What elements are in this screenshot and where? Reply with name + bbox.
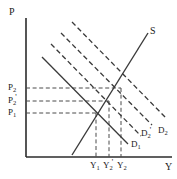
- demand-curve-d2-letter: D: [158, 125, 165, 135]
- demand-curve-d2-prime: [61, 33, 152, 125]
- supply-curve-group: [72, 33, 148, 155]
- demand-curves-group: [42, 22, 166, 144]
- quantity-tick-y2-letter: Y: [117, 160, 124, 170]
- price-tick-p2-subscript: 2: [13, 86, 16, 93]
- price-tick-p2-prime: P2': [8, 96, 18, 105]
- y-axis-label: P: [9, 7, 15, 17]
- demand-curve-d2-prime-mark: ': [150, 126, 151, 135]
- quantity-tick-y2-prime-mark: ': [112, 158, 113, 167]
- demand-curve-d1-letter: D: [131, 139, 138, 149]
- demand-curve-d2-subscript: 2: [165, 129, 168, 136]
- x-axis-label: Y: [165, 162, 172, 172]
- quantity-guide-lines: [96, 88, 121, 157]
- quantity-tick-y2: Y2: [117, 161, 127, 170]
- supply-demand-chart: P Y S D1 D2' D2 P2 P2' P1 Y1 Y2' Y2: [0, 0, 177, 179]
- price-tick-p1-subscript: 1: [13, 111, 16, 118]
- price-tick-p1: P1: [8, 108, 16, 117]
- demand-curve-d2: [72, 22, 166, 118]
- quantity-tick-y1-letter: Y: [90, 160, 97, 170]
- quantity-tick-y2-prime: Y2': [103, 161, 114, 170]
- demand-curve-d2-prime-label: D2': [141, 129, 152, 138]
- quantity-tick-y1: Y1: [90, 161, 100, 170]
- price-tick-p2-prime-mark: ': [15, 93, 16, 102]
- supply-curve-label: S: [150, 26, 156, 36]
- quantity-tick-y2-subscript: 2: [124, 164, 127, 171]
- demand-curve-d2-label: D2: [158, 126, 168, 135]
- price-tick-p2: P2: [8, 83, 16, 92]
- quantity-tick-y2-prime-letter: Y: [103, 160, 110, 170]
- demand-curve-d1-label: D1: [131, 140, 141, 149]
- demand-curve-d2-prime-letter: D: [141, 128, 148, 138]
- quantity-tick-y1-subscript: 1: [97, 164, 100, 171]
- demand-curve-d1-subscript: 1: [138, 143, 141, 150]
- supply-curve-s: [72, 33, 148, 155]
